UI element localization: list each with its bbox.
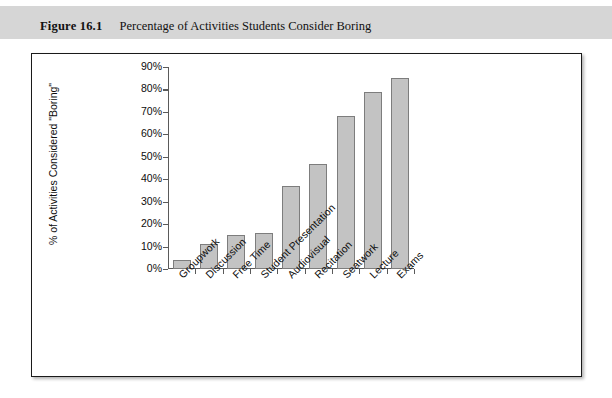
plot-area: % of Activities Considered "Boring" 0%10… — [32, 54, 581, 376]
x-axis-tick — [414, 269, 415, 274]
y-axis-tick — [163, 247, 168, 248]
y-axis-tick-label: 40% — [124, 173, 162, 183]
x-axis-tick — [332, 269, 333, 274]
y-axis-tick — [163, 157, 168, 158]
y-axis-tick-label: 30% — [124, 196, 162, 206]
y-axis-tick — [163, 179, 168, 180]
y-axis-tick-label: 80% — [124, 83, 162, 93]
y-axis-tick — [163, 224, 168, 225]
y-axis-tick — [163, 269, 168, 270]
bar — [391, 78, 409, 269]
y-axis-tick-labels: 0%10%20%30%40%50%60%70%80%90% — [124, 54, 162, 376]
y-axis-tick-label: 90% — [124, 61, 162, 71]
figure-title: Percentage of Activities Students Consid… — [120, 19, 372, 33]
y-axis-tick-label: 60% — [124, 128, 162, 138]
x-axis-tick — [305, 269, 306, 274]
y-axis-tick — [163, 89, 168, 90]
x-axis-tick — [195, 269, 196, 274]
y-axis-tick-label: 50% — [124, 151, 162, 161]
y-axis-tick-label: 70% — [124, 106, 162, 116]
figure-caption-band: Figure 16.1 Percentage of Activities Stu… — [0, 6, 612, 39]
y-axis-tick — [163, 134, 168, 135]
x-axis-tick — [359, 269, 360, 274]
x-axis-tick — [250, 269, 251, 274]
y-axis-tick — [163, 112, 168, 113]
y-axis-tick — [163, 67, 168, 68]
y-axis-tick-label: 20% — [124, 218, 162, 228]
y-axis-title: % of Activities Considered "Boring" — [47, 59, 59, 269]
figure-caption: Figure 16.1 Percentage of Activities Stu… — [40, 19, 371, 34]
x-axis-tick — [387, 269, 388, 274]
x-axis-tick-labels: GroupworkDiscussionFree TimeStudent Pres… — [168, 272, 468, 372]
y-axis-tick — [163, 202, 168, 203]
figure-number: Figure 16.1 — [40, 19, 102, 33]
y-axis-tick-label: 10% — [124, 241, 162, 251]
x-axis-tick — [223, 269, 224, 274]
x-axis-tick — [277, 269, 278, 274]
chart-panel: % of Activities Considered "Boring" 0%10… — [31, 53, 582, 377]
y-axis-tick-label: 0% — [124, 263, 162, 273]
